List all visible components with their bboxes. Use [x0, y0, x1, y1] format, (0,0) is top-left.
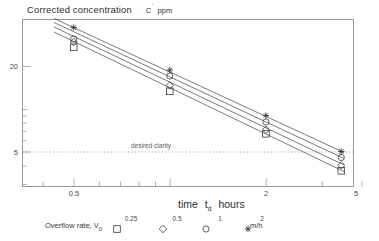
y-axis-ticks — [23, 67, 31, 185]
data-point — [263, 112, 269, 118]
legend-units: m/h — [250, 221, 263, 230]
x-axis-title-units: hours — [218, 198, 244, 210]
data-point — [338, 168, 345, 175]
fit-line-2 — [54, 19, 344, 153]
circle-marker — [200, 223, 240, 237]
fit-line-0.25 — [54, 32, 344, 172]
chart-figure: Corrected concentrationC´ppm — [0, 0, 379, 241]
diamond-marker — [157, 223, 197, 237]
x-tick-label-5: 5 — [354, 189, 374, 198]
square-marker — [111, 223, 151, 237]
x-axis-title-text: time — [178, 198, 198, 210]
y-tick-label-5: 5 — [2, 148, 18, 157]
desired-clarity-label: desired clarity — [131, 143, 171, 150]
legend-title-text: Overflow rate, — [45, 221, 92, 230]
data-point — [71, 24, 77, 30]
x-tick-label-2: 2 — [254, 189, 278, 198]
legend-value: 0.5 — [157, 214, 197, 223]
y-tick-label-20: 20 — [2, 62, 18, 71]
data-point — [167, 67, 173, 73]
chart-legend: Overflow rate, V0 0.25 0.5 1 — [0, 214, 379, 241]
legend-item-0.5[interactable]: 0.5 — [157, 214, 197, 237]
fit-line-1 — [54, 23, 344, 159]
legend-item-1[interactable]: 1 — [200, 214, 240, 237]
series-0.5-markers — [70, 38, 345, 169]
data-point — [338, 148, 344, 154]
x-axis-title: timetdhours — [178, 199, 245, 213]
legend-value: 0.25 — [111, 214, 151, 223]
x-tick-label-0.5: 0.5 — [62, 189, 86, 198]
fit-line-0.5 — [54, 27, 344, 165]
legend-item-0.25[interactable]: 0.25 — [111, 214, 151, 237]
legend-title: Overflow rate, V0 — [45, 221, 102, 232]
data-point — [70, 44, 77, 51]
legend-title-subscript: 0 — [99, 226, 102, 232]
series-0.25-markers — [70, 44, 344, 174]
fit-lines — [54, 19, 344, 172]
x-axis-ticks — [43, 179, 362, 187]
legend-value: 1 — [200, 214, 240, 223]
x-axis-title-subscript: d — [208, 205, 212, 212]
